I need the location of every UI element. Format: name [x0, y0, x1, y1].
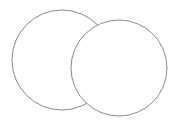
right-circle [71, 20, 167, 116]
diagram-canvas [0, 0, 177, 123]
